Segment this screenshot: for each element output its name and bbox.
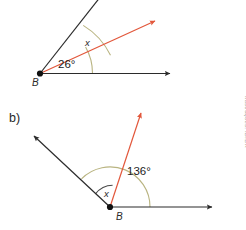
diagram-a-group xyxy=(37,0,170,77)
red-vertical-ray-diagram-b xyxy=(110,113,141,207)
black-upleft-ray-diagram-b xyxy=(34,136,110,207)
geometry-figure: 26° x B b) 136° x B Ilustrações: ID/BR xyxy=(0,0,246,230)
item-label-b: b) xyxy=(9,112,20,125)
vertex-label-b-diagram-b: B xyxy=(116,212,123,222)
vertex-dot-diagram-b xyxy=(107,204,113,210)
diagram-b-group xyxy=(34,113,212,210)
angle-label-x-diagram-b: x xyxy=(104,189,109,199)
angle-value-136: 136° xyxy=(127,166,151,178)
illustration-credit: Ilustrações: ID/BR xyxy=(244,96,246,148)
vertex-dot-diagram-a xyxy=(37,70,43,76)
figure-canvas xyxy=(0,0,246,230)
vertex-label-b-diagram-a: B xyxy=(32,78,39,88)
angle-value-26: 26° xyxy=(58,59,75,71)
angle-label-x-diagram-a: x xyxy=(85,38,90,48)
